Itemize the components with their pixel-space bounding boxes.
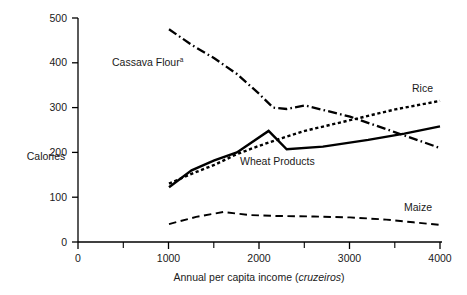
- y-tick-label-400: 400: [49, 56, 67, 68]
- series-lines-group: [169, 29, 440, 225]
- x-tick-label-4000: 4000: [428, 252, 452, 264]
- calories-vs-income-line-chart: 0 100 200 300 400 500 0 1000 2000 3000: [0, 0, 467, 295]
- x-axis-title-plain: Annual per capita income (: [173, 271, 298, 283]
- series-line-rice: [169, 101, 440, 184]
- x-tick-label-3000: 3000: [338, 252, 362, 264]
- chart-container: 0 100 200 300 400 500 0 1000 2000 3000: [0, 0, 467, 295]
- y-tick-label-300: 300: [49, 101, 67, 113]
- y-tick-label-500: 500: [49, 12, 67, 24]
- x-axis-tick-labels: 0 1000 2000 3000 4000: [75, 252, 452, 264]
- series-line-maize: [169, 212, 440, 225]
- rice-annotation: Rice: [412, 82, 433, 94]
- wheat-products-annotation: Wheat Products: [240, 155, 315, 167]
- x-tick-label-0: 0: [75, 252, 81, 264]
- y-axis-title: Calories: [27, 150, 66, 162]
- x-tick-label-1000: 1000: [157, 252, 181, 264]
- cassava-flour-annotation-superscript: a: [180, 56, 184, 63]
- x-axis-title-tail: ): [341, 271, 345, 283]
- x-tick-label-2000: 2000: [247, 252, 271, 264]
- x-axis-ticks: [78, 242, 440, 249]
- y-tick-label-0: 0: [61, 236, 67, 248]
- x-axis-title: Annual per capita income (cruzeiros): [173, 271, 344, 283]
- x-axis-title-italic: cruzeiros: [298, 271, 341, 283]
- axes-group: [78, 18, 442, 242]
- y-axis-ticks: [72, 18, 78, 242]
- y-tick-label-100: 100: [49, 191, 67, 203]
- y-axis-tick-labels: 0 100 200 300 400 500: [49, 12, 67, 248]
- maize-annotation: Maize: [404, 201, 432, 213]
- cassava-flour-annotation: Cassava Floura: [112, 56, 184, 68]
- cassava-flour-annotation-text: Cassava Flour: [112, 56, 180, 68]
